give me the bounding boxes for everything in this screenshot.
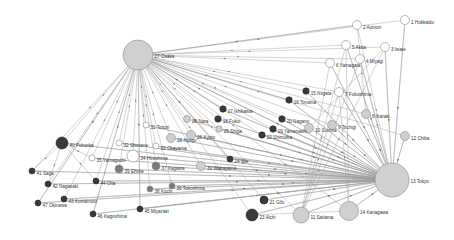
node-aichi[interactable]: 23 Aichi: [246, 209, 276, 221]
node-circle[interactable]: [116, 140, 122, 146]
node-circle[interactable]: [127, 150, 139, 162]
edge: [306, 91, 392, 180]
node-label: 20 Nagano: [287, 119, 310, 124]
node-tokyo[interactable]: 13 Tokyo: [375, 163, 429, 197]
node-saga[interactable]: 41 Saga: [29, 168, 54, 176]
edge-arrow-icon: [321, 137, 323, 139]
node-iwate[interactable]: 3 Iwate: [381, 43, 407, 52]
node-circle[interactable]: [270, 126, 276, 132]
node-circle[interactable]: [143, 122, 149, 128]
node-circle[interactable]: [153, 143, 159, 149]
node-nagasaki[interactable]: 42 Nagasaki: [45, 181, 78, 189]
node-circle[interactable]: [326, 59, 335, 68]
node-tokushima[interactable]: 36 Tokushima: [169, 183, 205, 191]
node-ehime[interactable]: 39 Ehime: [115, 165, 144, 174]
node-tottori[interactable]: 31 Tottori: [143, 122, 169, 130]
node-circle[interactable]: [286, 97, 292, 103]
node-toyama[interactable]: 16 Toyama: [286, 97, 317, 105]
node-wakayama[interactable]: 30 Wakayama: [197, 162, 237, 171]
edge-arrow-icon: [77, 150, 79, 152]
node-circle[interactable]: [137, 206, 143, 212]
node-kanagawa[interactable]: 14 Kanagawa: [340, 202, 389, 221]
node-circle[interactable]: [303, 88, 309, 94]
node-circle[interactable]: [184, 116, 191, 123]
node-oita[interactable]: 44 Oita: [93, 178, 116, 186]
node-label: 47 Okinawa: [43, 203, 68, 208]
node-fukushima[interactable]: 7 Fukushima: [335, 88, 372, 97]
node-ishikawa[interactable]: 17 Ishikawa: [220, 106, 253, 114]
node-circle[interactable]: [152, 162, 160, 170]
node-circle[interactable]: [93, 178, 99, 184]
node-nagano[interactable]: 20 Nagano: [279, 116, 310, 124]
node-yamanashi[interactable]: 19 Yamanashi: [270, 126, 307, 134]
node-yamaguchi[interactable]: 35 Yamaguchi: [89, 155, 125, 163]
node-circle[interactable]: [197, 162, 206, 171]
node-kochi[interactable]: 38 Kochi: [147, 186, 172, 194]
node-circle[interactable]: [215, 116, 221, 122]
node-circle[interactable]: [362, 110, 371, 119]
node-kagawa[interactable]: 37 Kagawa: [152, 162, 185, 171]
node-circle[interactable]: [375, 163, 409, 197]
node-circle[interactable]: [260, 196, 268, 204]
node-hokkaido[interactable]: 1 Hokkaido: [401, 16, 435, 25]
node-circle[interactable]: [220, 106, 226, 112]
node-circle[interactable]: [45, 181, 51, 187]
node-fukuoka[interactable]: 40 Fukuoka: [56, 137, 94, 149]
node-circle[interactable]: [123, 40, 153, 70]
node-shimane[interactable]: 32 Shimane: [116, 140, 148, 148]
node-niigata[interactable]: 15 Niigata: [303, 88, 332, 96]
node-circle[interactable]: [335, 88, 344, 97]
node-circle[interactable]: [259, 132, 265, 138]
node-circle[interactable]: [216, 126, 222, 132]
node-akita[interactable]: 5 Akita: [342, 41, 367, 50]
node-ibaraki[interactable]: 8 Ibaraki: [362, 110, 390, 119]
node-circle[interactable]: [35, 200, 41, 206]
node-chiba[interactable]: 12 Chiba: [401, 132, 430, 141]
node-circle[interactable]: [89, 155, 95, 161]
node-circle[interactable]: [342, 41, 351, 50]
edge-arrow-icon: [237, 56, 239, 58]
node-circle[interactable]: [29, 168, 35, 174]
node-label: 26 Kyoto: [197, 135, 216, 140]
node-nara[interactable]: 29 Nara: [184, 116, 209, 124]
node-circle[interactable]: [381, 43, 390, 52]
node-mie[interactable]: 24 Mie: [227, 156, 249, 164]
edge-arrow-icon: [350, 195, 352, 197]
node-circle[interactable]: [401, 132, 410, 141]
node-fukui[interactable]: 18 Fukui: [215, 116, 241, 124]
edge-arrow-icon: [236, 181, 238, 183]
node-circle[interactable]: [279, 116, 285, 122]
node-circle[interactable]: [293, 207, 309, 223]
node-circle[interactable]: [340, 202, 359, 221]
edge-arrow-icon: [223, 58, 225, 60]
edge: [138, 55, 339, 92]
node-label: 41 Saga: [37, 171, 55, 176]
node-shiga[interactable]: 25 Shiga: [216, 126, 242, 134]
node-circle[interactable]: [90, 211, 96, 217]
node-circle[interactable]: [353, 21, 362, 30]
node-label: 16 Toyama: [294, 100, 317, 105]
node-circle[interactable]: [227, 156, 233, 162]
edge: [64, 55, 138, 199]
edge-arrow-icon: [152, 91, 154, 93]
node-circle[interactable]: [401, 16, 410, 25]
node-circle[interactable]: [147, 186, 153, 192]
node-label: 27 Osaka: [155, 54, 175, 59]
node-circle[interactable]: [61, 196, 67, 202]
edge-arrow-icon: [138, 123, 140, 125]
node-label: 5 Akita: [352, 45, 366, 50]
node-label: 24 Mie: [235, 159, 249, 164]
node-label: 30 Wakayama: [207, 166, 237, 171]
node-hiroshima[interactable]: 34 Hiroshima: [127, 150, 168, 162]
node-okayama[interactable]: 33 Okayama: [153, 143, 187, 151]
node-circle[interactable]: [115, 165, 123, 173]
node-circle[interactable]: [246, 209, 258, 221]
node-label: 32 Shimane: [124, 143, 149, 148]
edge: [138, 25, 357, 55]
node-circle[interactable]: [167, 134, 176, 143]
node-label: 42 Nagasaki: [53, 184, 79, 189]
node-aomori[interactable]: 2 Aomori: [353, 21, 382, 30]
node-saitama[interactable]: 11 Saitama: [293, 207, 334, 223]
edge-arrow-icon: [268, 174, 270, 176]
node-circle[interactable]: [56, 137, 68, 149]
